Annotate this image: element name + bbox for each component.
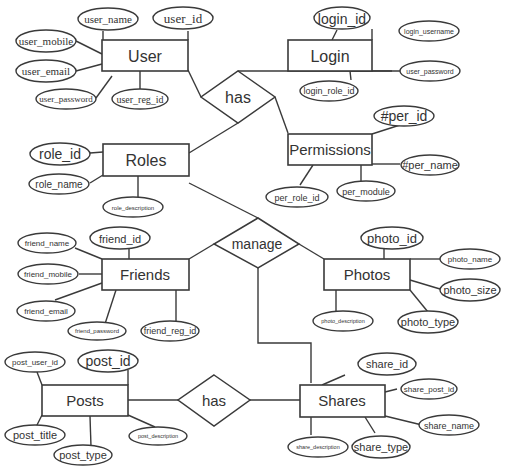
svg-text:photo_id: photo_id	[367, 231, 417, 246]
svg-text:friend_id: friend_id	[99, 233, 141, 245]
svg-text:user_reg_id: user_reg_id	[116, 94, 163, 105]
attribute-user-email: user_email	[16, 60, 76, 82]
entity-posts: Posts	[42, 385, 128, 416]
entity-friends: Friends	[102, 259, 189, 290]
attribute-role-description: role_description	[103, 197, 163, 217]
attribute-friend-mobile: friend_mobile	[18, 264, 78, 284]
svg-text:friend_name: friend_name	[25, 239, 70, 248]
entity-label: Posts	[66, 392, 104, 409]
attribute-friend-email: friend_email	[17, 301, 75, 321]
svg-text:post_type: post_type	[59, 449, 107, 461]
svg-text:friend_email: friend_email	[24, 307, 68, 316]
attribute-share-type: share_type	[352, 436, 410, 458]
entity-label: Photos	[344, 266, 391, 283]
svg-text:friend_mobile: friend_mobile	[24, 270, 73, 279]
attribute-per-name: #per_name	[401, 155, 459, 175]
svg-text:#per_id: #per_id	[381, 108, 428, 124]
entity-shares: Shares	[300, 385, 385, 417]
attribute-login-username: login_username	[399, 21, 459, 41]
svg-text:share_type: share_type	[354, 441, 408, 453]
attribute-login-role-id: login_role_id	[300, 81, 358, 101]
entity-photos: Photos	[324, 259, 410, 290]
svg-text:post_description: post_description	[138, 433, 178, 439]
svg-text:login_role_id: login_role_id	[303, 86, 354, 96]
attribute-friend-id: friend_id	[90, 227, 150, 249]
entity-user: User	[102, 40, 188, 71]
entity-label: Shares	[318, 392, 366, 409]
svg-text:friend_password: friend_password	[75, 328, 119, 334]
attribute-user-mobile: user_mobile	[16, 30, 76, 52]
attribute-per-role-id: per_role_id	[266, 187, 328, 207]
attribute-post-title: post_title	[5, 425, 65, 445]
svg-text:photo_description: photo_description	[321, 318, 364, 324]
attribute-photo-id: photo_id	[361, 227, 423, 249]
entity-label: Friends	[120, 266, 170, 283]
svg-text:photo_type: photo_type	[401, 316, 455, 328]
svg-text:role_name: role_name	[35, 179, 83, 190]
entity-label: User	[128, 48, 162, 65]
er-diagram: has manage has User Login Permissions Ro…	[0, 0, 508, 475]
attribute-post-type: post_type	[54, 445, 112, 465]
attribute-share-name: share_name	[419, 415, 479, 435]
svg-text:per_role_id: per_role_id	[274, 193, 319, 203]
svg-text:login_username: login_username	[404, 28, 454, 36]
entity-permissions: Permissions	[288, 134, 372, 165]
svg-text:friend_reg_id: friend_reg_id	[144, 326, 197, 336]
entity-roles: Roles	[103, 144, 189, 176]
attribute-friend-password: friend_password	[68, 322, 126, 340]
relationship-has-bottom: has	[178, 375, 250, 426]
attribute-per-module: per_module	[337, 181, 395, 201]
attribute-post-user-id: post_user_id	[5, 352, 65, 372]
attribute-login-id: login_id	[314, 7, 370, 29]
attribute-share-id: share_id	[358, 353, 416, 375]
svg-text:user_name: user_name	[84, 13, 132, 25]
attribute-post-id: post_id	[78, 350, 138, 372]
relationship-label: has	[225, 89, 251, 106]
svg-text:user_password: user_password	[406, 68, 454, 76]
svg-text:user_id: user_id	[164, 11, 203, 26]
attribute-user-id: user_id	[153, 7, 213, 29]
svg-text:role_id: role_id	[39, 146, 81, 162]
relationship-manage: manage	[214, 218, 299, 268]
attribute-user-reg-id: user_reg_id	[112, 89, 168, 109]
attribute-role-id: role_id	[30, 143, 90, 165]
svg-text:role_description: role_description	[112, 205, 154, 211]
entity-login: Login	[288, 40, 372, 71]
attribute-photo-size: photo_size	[440, 279, 500, 301]
svg-text:post_user_id: post_user_id	[12, 358, 58, 367]
svg-text:#per_name: #per_name	[402, 159, 458, 171]
attribute-photo-name: photo_name	[440, 249, 500, 269]
attribute-share-description: share_description	[288, 437, 348, 457]
attribute-friend-reg-id: friend_reg_id	[141, 321, 199, 341]
svg-text:share_id: share_id	[366, 358, 408, 370]
attribute-login-user-password: user_password	[400, 61, 460, 81]
relationship-has-top: has	[201, 71, 275, 123]
entity-label: Roles	[126, 152, 167, 169]
svg-text:post_title: post_title	[13, 429, 57, 441]
attribute-photo-type: photo_type	[398, 311, 458, 333]
relationship-label: manage	[232, 236, 283, 252]
entity-label: Login	[310, 48, 349, 65]
svg-text:login_id: login_id	[318, 11, 366, 27]
relationship-label: has	[202, 392, 226, 409]
attribute-photo-description: photo_description	[313, 311, 373, 331]
svg-text:share_name: share_name	[424, 421, 474, 431]
svg-text:post_id: post_id	[85, 353, 130, 369]
attribute-friend-name: friend_name	[18, 233, 76, 253]
svg-text:per_module: per_module	[342, 187, 390, 197]
attribute-post-description: post_description	[129, 427, 187, 445]
attribute-role-name: role_name	[29, 174, 89, 194]
svg-text:photo_name: photo_name	[448, 255, 493, 264]
svg-text:user_email: user_email	[22, 65, 70, 77]
svg-text:share_post_id: share_post_id	[404, 385, 454, 394]
svg-text:share_description: share_description	[296, 444, 339, 450]
attribute-user-name: user_name	[78, 8, 138, 30]
svg-text:user_mobile: user_mobile	[19, 35, 73, 47]
svg-text:photo_size: photo_size	[443, 284, 496, 296]
entity-label: Permissions	[289, 141, 371, 158]
attribute-share-post-id: share_post_id	[401, 379, 457, 399]
svg-text:user_password: user_password	[39, 94, 93, 104]
attribute-user-password: user_password	[36, 89, 96, 109]
attribute-per-id: #per_id	[374, 106, 434, 126]
